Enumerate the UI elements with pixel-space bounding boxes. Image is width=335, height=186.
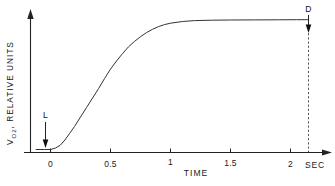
x-tick-label-4: 2 [288,159,293,169]
y-axis-arrowhead [27,9,33,19]
y-axis [27,9,33,152]
x-axis-arrowhead [322,149,332,155]
y-axis-title: VO2, RELATIVE UNITS [5,41,17,145]
y-axis-title-subscript: O2 [11,128,17,138]
x-axis [24,149,332,155]
x-tick-label-0: 0 [48,159,53,169]
x-tick-label-2: 1 [168,157,173,167]
x-axis-unit-label: SEC [305,160,325,170]
y-axis-title-group: VO2, RELATIVE UNITS [5,41,17,145]
light-onset-label: L [43,110,48,120]
response-curve-chart: 0 0.5 1 1.5 2 TIME SEC VO2, RELATIVE UNI… [0,0,335,186]
dark-onset-label: D [305,4,312,14]
response-curve-path [36,20,308,150]
light-onset-marker: L [43,110,49,148]
x-axis-ticks [51,149,291,153]
x-tick-label-1: 0.5 [104,159,116,169]
dark-onset-arrowhead [306,25,312,34]
y-axis-title-rest: , RELATIVE UNITS [5,41,15,128]
dark-onset-marker: D [305,4,312,33]
chart-figure: 0 0.5 1 1.5 2 TIME SEC VO2, RELATIVE UNI… [0,0,335,186]
x-axis-title: TIME [184,168,209,178]
x-tick-label-3: 1.5 [224,158,236,168]
light-onset-arrowhead [43,140,49,149]
